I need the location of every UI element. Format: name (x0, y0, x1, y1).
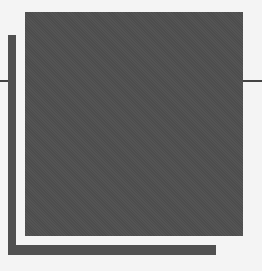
left-tick-line (0, 80, 8, 82)
left-shadow-bar (8, 35, 16, 255)
dark-square (25, 12, 243, 236)
bottom-shadow-bar (8, 245, 216, 255)
right-tick-line (243, 80, 262, 82)
